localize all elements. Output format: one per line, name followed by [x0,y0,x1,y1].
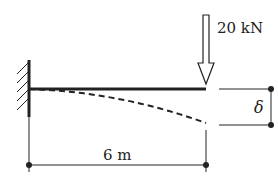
load-label: 20 kN [217,19,263,37]
span-label: 6 m [103,146,132,164]
deflection-label: δ [254,98,264,117]
load-arrow [198,15,214,84]
deflected-shape [29,89,206,123]
fixed-support [17,60,29,117]
cantilever-diagram: 20 kN 6 m δ [0,0,278,190]
